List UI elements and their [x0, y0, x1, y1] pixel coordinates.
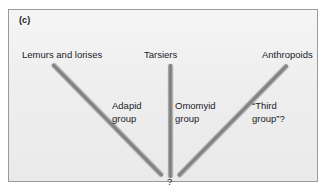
- branch-bar-tarsiers: [168, 64, 173, 178]
- group-label-omomyid-line-1: Omomyid: [175, 100, 216, 113]
- convergence-question-mark: ?: [167, 177, 172, 187]
- taxon-label-anthropoids: Anthropoids: [262, 50, 313, 60]
- branch-bar-lemurs-and-lorises: [51, 62, 165, 177]
- panel-caption: (c): [19, 16, 30, 25]
- group-label-adapid-line-2: group: [112, 113, 142, 126]
- figure-panel: (c) Lemurs and lorises Tarsiers Anthropo…: [8, 9, 318, 182]
- group-label-third-group-line-2: group”?: [252, 113, 285, 126]
- taxon-label-tarsiers: Tarsiers: [144, 50, 177, 60]
- panel-background-tint: [9, 10, 317, 181]
- group-label-third-group-line-1: “Third: [252, 100, 285, 113]
- figure-root: (c) Lemurs and lorises Tarsiers Anthropo…: [0, 0, 328, 196]
- taxon-label-lemurs-and-lorises: Lemurs and lorises: [22, 50, 102, 60]
- group-label-omomyid-line-2: group: [175, 113, 216, 126]
- group-label-third-group: “Third group”?: [252, 100, 285, 125]
- group-label-omomyid: Omomyid group: [175, 100, 216, 125]
- group-label-adapid: Adapid group: [112, 100, 142, 125]
- group-label-adapid-line-1: Adapid: [112, 100, 142, 113]
